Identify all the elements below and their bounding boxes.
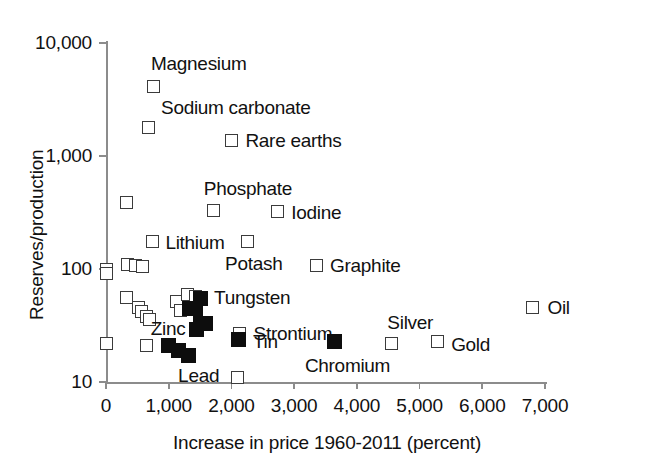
y-tick-label-10: 10 [0, 372, 105, 391]
y-tick-label-10000: 10,000 [0, 33, 105, 52]
point-label-iodine: Iodine [291, 203, 341, 222]
data-point-graphite [310, 259, 323, 272]
data-point-gold [431, 335, 444, 348]
data-point-chromium [327, 334, 342, 349]
y-tick-label-1000: 1,000 [0, 146, 105, 165]
data-point-magnesium [147, 80, 160, 93]
x-tick-0 [105, 382, 107, 389]
data-point-tungsten [193, 291, 208, 306]
point-label-zinc: Zinc [151, 319, 186, 338]
x-tick-5000 [419, 382, 421, 389]
point-label-silver: Silver [387, 313, 433, 332]
data-point-unlabeled [100, 337, 113, 350]
data-point-unlabeled [189, 322, 204, 337]
data-point-lead [171, 343, 186, 358]
data-point-rare-earths [225, 134, 238, 147]
point-label-oil: Oil [547, 298, 569, 317]
data-point-potash [241, 235, 254, 248]
data-point-lithium [146, 235, 159, 248]
data-point-unlabeled [120, 196, 133, 209]
point-label-tin: Tin [253, 332, 278, 351]
x-tick-3000 [293, 382, 295, 389]
x-tick-6000 [481, 382, 483, 389]
data-point-sodium-carbonate [142, 121, 155, 134]
y-axis-title: Reserves/production [26, 150, 48, 320]
data-point-tin [231, 332, 246, 347]
data-point-unlabeled [100, 267, 113, 280]
point-label-sodium-carbonate: Sodium carbonate [161, 98, 310, 117]
point-label-magnesium: Magnesium [151, 54, 247, 73]
data-point-unlabeled [140, 339, 153, 352]
x-tick-7000 [544, 382, 546, 389]
point-label-chromium: Chromium [305, 356, 390, 375]
point-label-tungsten: Tungsten [214, 288, 290, 307]
point-label-gold: Gold [451, 335, 490, 354]
point-label-rare-earths: Rare earths [245, 131, 341, 150]
data-point-unlabeled [231, 371, 244, 384]
x-tick-1000 [168, 382, 170, 389]
x-axis-title: Increase in price 1960-2011 (percent) [0, 432, 654, 454]
y-tick-label-100: 100 [0, 259, 105, 278]
point-label-lead: Lead [178, 366, 219, 385]
data-point-oil [526, 301, 539, 314]
point-label-lithium: Lithium [165, 233, 224, 252]
y-axis-line [106, 41, 108, 384]
data-point-silver [385, 337, 398, 350]
point-label-phosphate: Phosphate [204, 179, 292, 198]
x-tick-4000 [356, 382, 358, 389]
data-point-iodine [271, 205, 284, 218]
point-label-graphite: Graphite [330, 256, 400, 275]
data-point-phosphate [207, 204, 220, 217]
point-label-potash: Potash [225, 254, 282, 273]
scatter-chart: 101001,00010,00001,0002,0003,0004,0005,0… [0, 0, 654, 467]
x-tick-label-7000: 7,000 [500, 396, 590, 415]
data-point-unlabeled [136, 260, 149, 273]
